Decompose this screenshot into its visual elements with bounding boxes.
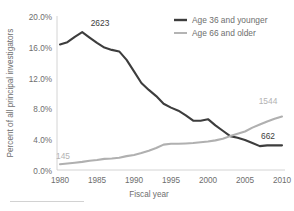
legend: Age 36 and younger Age 66 and older bbox=[174, 15, 268, 38]
x-axis-title: Fiscal year bbox=[129, 190, 169, 199]
legend-label-age-66-and-older: Age 66 and older bbox=[192, 28, 256, 38]
x-tick-label: 1995 bbox=[162, 176, 181, 185]
annotation-end-young: 662 bbox=[261, 131, 275, 141]
y-tick-label: 16.0% bbox=[29, 44, 52, 53]
y-tick-label: 12.0% bbox=[29, 75, 52, 84]
annotation-peak-young: 2623 bbox=[91, 18, 110, 28]
x-tick-label: 2010 bbox=[273, 176, 292, 185]
x-tick-label: 1985 bbox=[88, 176, 107, 185]
chart-canvas: 20.0% 16.0% 12.0% 8.0% 4.0% 0.0% 1980 19… bbox=[0, 0, 294, 211]
annotation-end-old: 1544 bbox=[259, 96, 278, 106]
series-line-age-66-and-older bbox=[60, 116, 282, 164]
footer-divider bbox=[10, 201, 84, 202]
y-axis-title: Percent of all principal investigators bbox=[6, 29, 15, 158]
annotation-start-old: 145 bbox=[56, 151, 70, 161]
legend-label-age-36-and-younger: Age 36 and younger bbox=[192, 15, 268, 25]
y-tick-label: 8.0% bbox=[33, 105, 52, 114]
x-tick-label: 2000 bbox=[199, 176, 218, 185]
y-tick-label: 20.0% bbox=[29, 13, 52, 22]
x-tick-label: 2005 bbox=[236, 176, 255, 185]
y-tick-label: 4.0% bbox=[33, 136, 52, 145]
x-tick-label: 1980 bbox=[51, 176, 70, 185]
line-chart: 20.0% 16.0% 12.0% 8.0% 4.0% 0.0% 1980 19… bbox=[0, 0, 294, 211]
x-tick-label: 1990 bbox=[125, 176, 144, 185]
y-tick-label: 0.0% bbox=[33, 167, 52, 176]
